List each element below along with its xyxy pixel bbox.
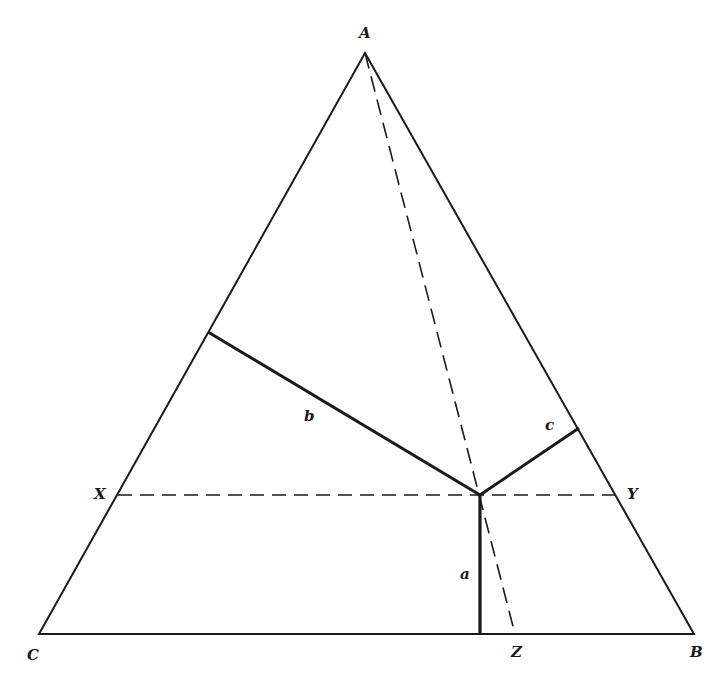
point-label-y: Y	[627, 487, 638, 502]
vertex-label-a: A	[359, 26, 371, 41]
triangle-abc	[39, 53, 694, 634]
point-label-z: Z	[511, 645, 522, 660]
perpendicular-c	[480, 428, 579, 495]
segment-label-b: b	[304, 409, 315, 424]
dashed-line-az	[365, 53, 515, 634]
segment-label-c: c	[545, 418, 554, 433]
segment-label-a: a	[460, 567, 470, 582]
diagram-svg	[0, 0, 725, 684]
vertex-label-c: C	[27, 648, 39, 663]
vertex-label-b: B	[690, 645, 703, 660]
ternary-diagram: A B C X Y Z a b c	[0, 0, 725, 684]
point-label-x: X	[94, 487, 106, 502]
perpendicular-b	[208, 332, 480, 495]
